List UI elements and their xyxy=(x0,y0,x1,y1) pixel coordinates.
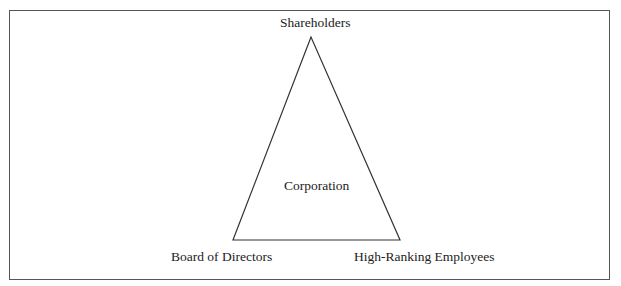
label-high-ranking-employees: High-Ranking Employees xyxy=(354,249,495,265)
triangle-shape xyxy=(0,0,621,286)
label-corporation: Corporation xyxy=(284,178,349,194)
label-shareholders: Shareholders xyxy=(280,15,350,31)
label-board-of-directors: Board of Directors xyxy=(171,249,272,265)
